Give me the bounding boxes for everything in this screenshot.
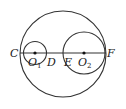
point-o2 xyxy=(82,51,85,54)
label-o1-main: O xyxy=(28,56,37,69)
label-o2-main: O xyxy=(78,56,87,69)
geometry-diagram: C F O1 D E O2 xyxy=(0,0,126,109)
label-o2-sub: 2 xyxy=(87,62,91,70)
label-o2: O2 xyxy=(78,56,92,70)
label-o1-sub: 1 xyxy=(37,62,41,70)
label-c: C xyxy=(10,47,19,60)
label-f: F xyxy=(106,47,115,60)
label-e: E xyxy=(63,56,72,69)
point-o1 xyxy=(33,51,36,54)
label-o1: O1 xyxy=(28,56,42,70)
label-d: D xyxy=(46,56,56,69)
